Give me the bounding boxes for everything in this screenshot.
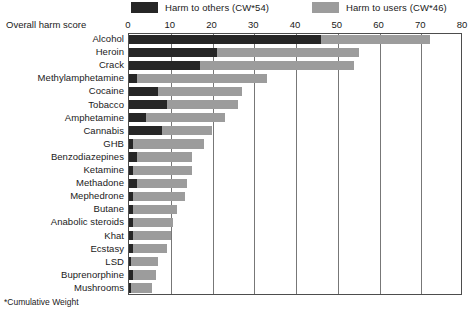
bar-segment-harm-to-users (146, 113, 225, 122)
x-tick-label: 20 (206, 19, 217, 31)
bar-row: Methylamphetamine (0, 72, 469, 85)
bar-segment-harm-to-users (137, 74, 266, 83)
bar-row: Amphetamine (0, 112, 469, 125)
legend-item-harm-to-users: Harm to users (CW*46) (312, 1, 447, 14)
legend-item-harm-to-others: Harm to others (CW*54) (131, 1, 269, 14)
stacked-bar (129, 166, 192, 175)
category-label: Ketamine (0, 164, 124, 176)
x-tick-label: 60 (373, 19, 384, 31)
bar-row: Heroin (0, 46, 469, 59)
bar-segment-harm-to-users (137, 152, 191, 161)
category-label: Crack (0, 59, 124, 71)
bar-segment-harm-to-users (133, 192, 185, 201)
bar-row: LSD (0, 256, 469, 269)
bar-segment-harm-to-others (129, 35, 321, 44)
category-label: Buprenorphine (0, 269, 124, 281)
bar-row: Tobacco (0, 99, 469, 112)
stacked-bar (129, 126, 212, 135)
stacked-bar (129, 179, 187, 188)
category-label: Heroin (0, 46, 124, 58)
stacked-bar (129, 152, 192, 161)
bar-segment-harm-to-users (162, 126, 212, 135)
category-label: GHB (0, 138, 124, 150)
stacked-bar (129, 74, 267, 83)
bar-row: Ketamine (0, 164, 469, 177)
category-label: Mushrooms (0, 282, 124, 294)
bar-row: Methadone (0, 177, 469, 190)
bar-row: Anabolic steroids (0, 216, 469, 229)
overall-harm-score-chart: Harm to others (CW*54) Harm to users (CW… (0, 0, 469, 311)
bar-row: Butane (0, 203, 469, 216)
category-label: Amphetamine (0, 112, 124, 124)
bar-segment-harm-to-others (129, 126, 162, 135)
bar-segment-harm-to-users (217, 48, 359, 57)
stacked-bar (129, 257, 158, 266)
bar-segment-harm-to-users (167, 100, 238, 109)
bar-segment-harm-to-users (137, 179, 187, 188)
stacked-bar (129, 61, 354, 70)
category-label: LSD (0, 256, 124, 268)
bar-row: Crack (0, 59, 469, 72)
category-label: Benzodiazepines (0, 151, 124, 163)
stacked-bar (129, 113, 225, 122)
category-label: Anabolic steroids (0, 216, 124, 228)
x-tick-label: 30 (248, 19, 259, 31)
bar-segment-harm-to-others (129, 100, 167, 109)
x-axis-tick-labels: 01020304050607080 (0, 19, 469, 32)
bar-segment-harm-to-users (133, 139, 204, 148)
bar-segment-harm-to-users (133, 205, 177, 214)
legend-swatch-harm-to-users (312, 2, 339, 13)
bar-segment-harm-to-users (133, 166, 191, 175)
bar-segment-harm-to-users (131, 257, 158, 266)
x-tick-label: 80 (457, 19, 468, 31)
category-label: Cannabis (0, 125, 124, 137)
category-label: Ecstasy (0, 243, 124, 255)
bar-segment-harm-to-others (129, 74, 137, 83)
stacked-bar (129, 192, 185, 201)
x-tick-label: 40 (290, 19, 301, 31)
stacked-bar (129, 139, 204, 148)
stacked-bar (129, 244, 167, 253)
bar-segment-harm-to-users (133, 270, 156, 279)
stacked-bar (129, 48, 359, 57)
bar-segment-harm-to-others (129, 87, 158, 96)
bar-segment-harm-to-users (133, 244, 166, 253)
footnote: *Cumulative Weight (4, 297, 79, 307)
x-tick-label: 10 (164, 19, 175, 31)
bar-segment-harm-to-others (129, 61, 200, 70)
category-label: Butane (0, 203, 124, 215)
bar-segment-harm-to-others (129, 152, 137, 161)
bar-segment-harm-to-others (129, 179, 137, 188)
x-tick-label: 0 (125, 19, 130, 31)
bar-segment-harm-to-others (129, 48, 217, 57)
bar-row: Buprenorphine (0, 269, 469, 282)
bar-segment-harm-to-others (129, 113, 146, 122)
category-label: Methylamphetamine (0, 72, 124, 84)
category-label: Tobacco (0, 99, 124, 111)
bar-row: Benzodiazepines (0, 151, 469, 164)
stacked-bar (129, 205, 177, 214)
chart-legend: Harm to others (CW*54) Harm to users (CW… (0, 0, 469, 17)
legend-label-harm-to-others: Harm to others (CW*54) (165, 2, 269, 13)
bar-segment-harm-to-users (131, 283, 152, 292)
category-label: Cocaine (0, 85, 124, 97)
bar-segment-harm-to-users (133, 218, 173, 227)
stacked-bar (129, 283, 152, 292)
x-tick-label: 50 (331, 19, 342, 31)
stacked-bar (129, 87, 242, 96)
bar-segment-harm-to-users (133, 231, 171, 240)
bar-row: Khat (0, 230, 469, 243)
category-label: Methadone (0, 177, 124, 189)
stacked-bar (129, 270, 156, 279)
bar-row: Mushrooms (0, 282, 469, 295)
bar-row: Cocaine (0, 85, 469, 98)
bar-row: Alcohol (0, 33, 469, 46)
bar-rows: AlcoholHeroinCrackMethylamphetamineCocai… (0, 33, 469, 295)
legend-swatch-harm-to-others (131, 2, 158, 13)
category-label: Alcohol (0, 33, 124, 45)
bar-row: Ecstasy (0, 243, 469, 256)
bar-row: Cannabis (0, 125, 469, 138)
legend-label-harm-to-users: Harm to users (CW*46) (346, 2, 447, 13)
category-label: Khat (0, 230, 124, 242)
x-tick-label: 70 (415, 19, 426, 31)
